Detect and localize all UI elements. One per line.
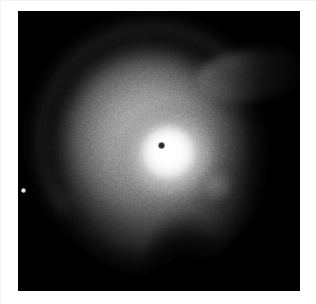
dark-region-bottom (18, 243, 300, 291)
masked-nucleus (158, 142, 165, 149)
astronomical-image-frame (18, 11, 300, 291)
figure-page (0, 0, 316, 304)
scan-hairline-left (0, 0, 1, 304)
field-star (21, 188, 26, 193)
scan-hairline-top (0, 0, 316, 1)
